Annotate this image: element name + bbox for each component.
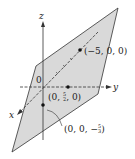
y-arrow-icon (106, 85, 112, 89)
x-axis-label: x (9, 111, 14, 120)
point-label-z-intercept: (0, 0, −53) (64, 124, 105, 134)
z-arrow-icon (41, 21, 45, 27)
y-axis-label: y (113, 83, 118, 92)
z-axis-label: z (39, 12, 44, 21)
point-0-0-neg5third (41, 103, 45, 107)
point-label-x-intercept: (−5, 0, 0) (84, 47, 127, 56)
plane-diagram (0, 0, 135, 159)
origin-label: 0 (36, 76, 42, 85)
point-label-y-intercept: (0, 52, 0) (48, 92, 81, 102)
point-0-5half-0 (66, 85, 70, 89)
point-neg5-0-0 (78, 48, 82, 52)
